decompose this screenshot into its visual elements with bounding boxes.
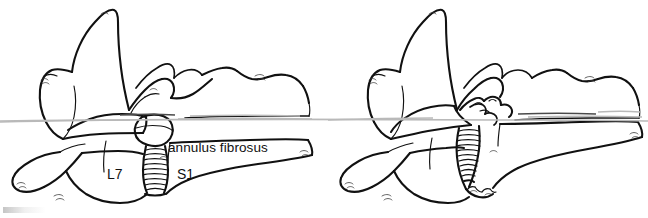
anatomical-figure: annulus fibrosus L7 S1: [0, 0, 648, 218]
left-panel-region: [0, 0, 324, 218]
right-panel-region: [324, 0, 648, 218]
